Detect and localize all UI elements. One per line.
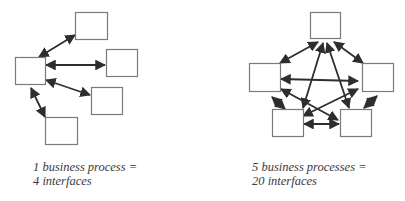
right-process-box-bottom-right	[341, 110, 372, 137]
right-bidirectional-arrow	[280, 42, 318, 63]
left-process-box-top	[76, 13, 108, 40]
left-diagram	[16, 13, 138, 145]
left-caption-line2: 4 interfaces	[33, 174, 137, 188]
right-process-box-left	[250, 64, 281, 92]
left-process-box-center	[16, 58, 46, 85]
right-diagram	[250, 13, 394, 137]
right-caption: 5 business processes = 20 interfaces	[252, 160, 367, 188]
right-bidirectional-arrow	[272, 97, 285, 109]
right-bidirectional-arrow	[364, 96, 377, 108]
left-process-box-right	[107, 50, 138, 77]
left-process-box-bottom	[46, 118, 78, 145]
left-bidirectional-arrow	[31, 88, 45, 117]
left-caption-line1: 1 business process =	[33, 160, 137, 174]
right-caption-line2: 20 interfaces	[252, 174, 367, 188]
right-process-box-bottom-left	[273, 110, 304, 137]
left-caption: 1 business process = 4 interfaces	[33, 160, 137, 188]
right-caption-line1: 5 business processes =	[252, 160, 367, 174]
right-process-box-top	[311, 13, 341, 39]
right-bidirectional-arrow	[281, 79, 358, 81]
left-bidirectional-arrow	[39, 35, 75, 57]
right-bidirectional-arrow	[303, 43, 323, 108]
right-process-box-right	[363, 64, 394, 92]
right-bidirectional-arrow	[334, 42, 363, 63]
left-process-box-mid-right	[92, 88, 123, 115]
left-bidirectional-arrow	[46, 80, 90, 95]
